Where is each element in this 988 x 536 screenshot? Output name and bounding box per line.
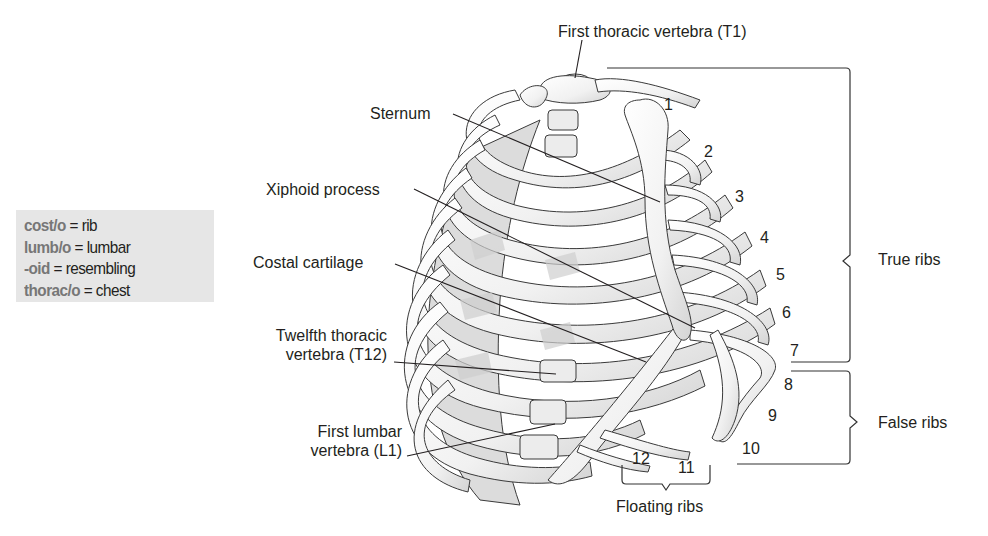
vocab-term: lumb/o <box>24 238 71 257</box>
rib-number-3: 3 <box>735 188 744 206</box>
label-floating-ribs: Floating ribs <box>616 497 703 516</box>
label-costal-cartilage: Costal cartilage <box>253 253 363 272</box>
rib-number-2: 2 <box>704 143 713 161</box>
label-true-ribs: True ribs <box>878 250 941 269</box>
vocab-separator: = <box>66 216 82 235</box>
label-line: Twelfth thoracic <box>247 326 387 345</box>
rib-number-8: 8 <box>784 376 793 394</box>
vocab-row: lumb/o = lumbar <box>24 237 188 259</box>
rib-number-10: 10 <box>742 440 760 458</box>
t1-vertebra <box>520 74 700 108</box>
label-sternum: Sternum <box>370 104 430 123</box>
label-xiphoid-process: Xiphoid process <box>266 180 380 199</box>
rib-number-9: 9 <box>768 407 777 425</box>
vocab-meaning: chest <box>96 281 130 300</box>
vocab-row: thorac/o = chest <box>24 280 188 302</box>
vocab-term: -oid <box>24 259 50 278</box>
vocab-meaning: rib <box>82 216 97 235</box>
label-line: First lumbar <box>266 422 402 441</box>
rib-number-6: 6 <box>782 304 791 322</box>
rib-number-1: 1 <box>664 96 673 114</box>
vocab-row: cost/o = rib <box>24 215 188 237</box>
label-first-thoracic-vertebra: First thoracic vertebra (T1) <box>558 22 746 41</box>
label-line: vertebra (L1) <box>266 441 402 460</box>
rib-number-12: 12 <box>632 450 650 468</box>
label-twelfth-thoracic-vertebra: Twelfth thoracic vertebra (T12) <box>247 326 387 364</box>
rib-number-5: 5 <box>776 266 785 284</box>
rib-number-11: 11 <box>678 459 695 477</box>
vocabulary-box: cost/o = rib lumb/o = lumbar -oid = rese… <box>16 210 214 302</box>
vocab-separator: = <box>71 238 87 257</box>
label-line: vertebra (T12) <box>247 345 387 364</box>
vocab-meaning: lumbar <box>87 238 131 257</box>
rib-number-7: 7 <box>790 342 799 360</box>
vocab-separator: = <box>80 281 96 300</box>
vocab-row: -oid = resembling <box>24 258 188 280</box>
vocab-term: cost/o <box>24 216 66 235</box>
label-false-ribs: False ribs <box>878 413 947 432</box>
label-first-lumbar-vertebra: First lumbar vertebra (L1) <box>266 422 402 460</box>
vocab-meaning: resembling <box>66 259 135 278</box>
rib-number-4: 4 <box>760 229 769 247</box>
vocab-term: thorac/o <box>24 281 80 300</box>
vocab-separator: = <box>50 259 66 278</box>
leader-t1 <box>575 40 582 78</box>
